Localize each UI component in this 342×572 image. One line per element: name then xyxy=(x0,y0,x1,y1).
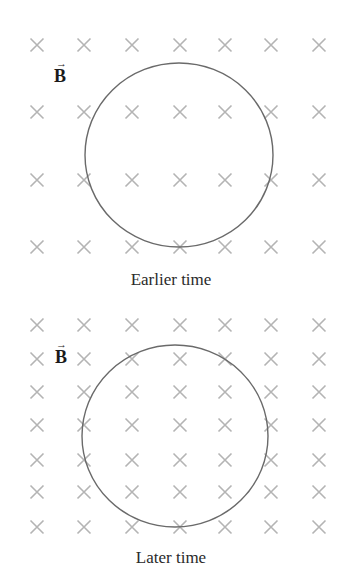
field-into-page-icon xyxy=(31,353,44,366)
field-into-page-icon xyxy=(78,521,91,534)
field-into-page-icon xyxy=(313,106,326,119)
field-into-page-icon xyxy=(174,319,187,332)
field-into-page-icon xyxy=(313,39,326,52)
field-into-page-icon xyxy=(174,454,187,467)
field-into-page-icon xyxy=(174,419,187,432)
field-into-page-icon xyxy=(31,419,44,432)
field-into-page-icon xyxy=(313,454,326,467)
field-into-page-icon xyxy=(31,39,44,52)
field-label-earlier: → B xyxy=(54,66,66,87)
field-into-page-icon xyxy=(126,319,139,332)
field-into-page-icon xyxy=(31,386,44,399)
field-into-page-icon xyxy=(174,353,187,366)
field-into-page-icon xyxy=(174,486,187,499)
field-into-page-icon xyxy=(31,486,44,499)
field-into-page-icon xyxy=(31,174,44,187)
field-into-page-icon xyxy=(126,454,139,467)
field-into-page-icon xyxy=(219,486,232,499)
vector-arrow-icon: → xyxy=(56,57,67,69)
caption-later-time: Later time xyxy=(0,548,342,568)
field-into-page-icon xyxy=(78,241,91,254)
field-into-page-icon xyxy=(174,174,187,187)
field-into-page-icon xyxy=(313,319,326,332)
field-into-page-icon xyxy=(174,39,187,52)
field-into-page-icon xyxy=(219,319,232,332)
field-into-page-icon xyxy=(313,241,326,254)
field-into-page-icon xyxy=(78,106,91,119)
field-label-later: → B xyxy=(54,347,68,368)
field-into-page-icon xyxy=(31,319,44,332)
field-into-page-icon xyxy=(265,386,278,399)
field-into-page-icon xyxy=(78,353,91,366)
field-into-page-icon xyxy=(31,106,44,119)
field-into-page-icon xyxy=(31,454,44,467)
field-into-page-icon xyxy=(126,386,139,399)
field-into-page-icon xyxy=(126,486,139,499)
field-into-page-icon xyxy=(31,241,44,254)
field-panel-later xyxy=(31,319,326,534)
field-into-page-icon xyxy=(126,353,139,366)
field-into-page-icon xyxy=(313,486,326,499)
field-into-page-icon xyxy=(174,106,187,119)
field-into-page-icon xyxy=(78,319,91,332)
field-into-page-icon xyxy=(126,39,139,52)
field-into-page-icon xyxy=(313,353,326,366)
field-into-page-icon xyxy=(265,106,278,119)
conducting-loop xyxy=(85,63,273,247)
field-into-page-icon xyxy=(219,106,232,119)
field-into-page-icon xyxy=(219,454,232,467)
field-into-page-icon xyxy=(219,521,232,534)
field-into-page-icon xyxy=(126,174,139,187)
field-into-page-icon xyxy=(78,39,91,52)
field-into-page-icon xyxy=(313,386,326,399)
field-into-page-icon xyxy=(219,386,232,399)
field-into-page-icon xyxy=(78,486,91,499)
field-into-page-icon xyxy=(265,521,278,534)
field-into-page-icon xyxy=(174,386,187,399)
field-into-page-icon xyxy=(313,174,326,187)
field-into-page-icon xyxy=(31,521,44,534)
field-into-page-icon xyxy=(126,419,139,432)
field-into-page-icon xyxy=(265,241,278,254)
field-into-page-icon xyxy=(219,174,232,187)
field-into-page-icon xyxy=(126,521,139,534)
field-into-page-icon xyxy=(219,39,232,52)
field-into-page-icon xyxy=(265,486,278,499)
field-into-page-icon xyxy=(78,386,91,399)
field-into-page-icon xyxy=(126,106,139,119)
field-panel-earlier xyxy=(31,39,326,254)
conducting-loop xyxy=(82,345,268,527)
field-into-page-icon xyxy=(265,39,278,52)
field-into-page-icon xyxy=(265,353,278,366)
field-into-page-icon xyxy=(219,241,232,254)
field-into-page-icon xyxy=(219,419,232,432)
field-into-page-icon xyxy=(126,241,139,254)
field-into-page-icon xyxy=(265,319,278,332)
field-into-page-icon xyxy=(313,419,326,432)
field-into-page-icon xyxy=(313,521,326,534)
vector-arrow-icon: → xyxy=(56,338,67,350)
caption-earlier-time: Earlier time xyxy=(0,270,342,290)
